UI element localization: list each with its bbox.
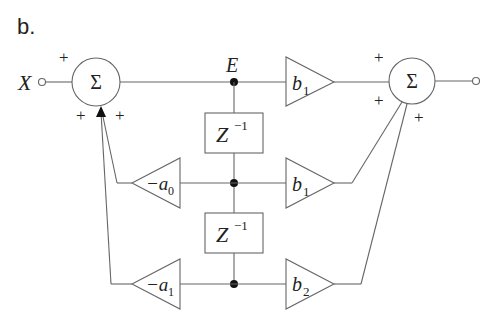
- delay-block: Z −1: [205, 213, 263, 253]
- input-terminal: [39, 79, 46, 86]
- sign-plus: +: [374, 91, 384, 110]
- svg-text:Z: Z: [216, 222, 229, 247]
- output-terminal: [473, 78, 480, 85]
- gain-b1-mid: b 1: [286, 158, 334, 208]
- svg-text:2: 2: [303, 284, 310, 299]
- svg-text:−a: −a: [146, 274, 168, 295]
- sign-plus: +: [59, 48, 69, 67]
- svg-text:b: b: [292, 273, 302, 295]
- svg-text:Σ: Σ: [406, 70, 418, 92]
- sign-plus: +: [115, 106, 125, 125]
- input-label: X: [17, 70, 33, 95]
- sign-plus: +: [76, 106, 86, 125]
- svg-text:−1: −1: [234, 218, 248, 233]
- svg-text:Σ: Σ: [90, 71, 102, 93]
- gain-b2: b 2: [286, 259, 334, 309]
- svg-text:−a: −a: [146, 173, 168, 194]
- arrowhead-icon: [96, 106, 106, 117]
- sign-plus: +: [374, 48, 384, 67]
- svg-text:−1: −1: [234, 118, 248, 133]
- block-diagram: X Σ + + + E Z −1 Z −1 b 1 Σ + + +: [0, 0, 496, 325]
- gain-b1-top: b 1: [286, 57, 334, 106]
- svg-text:0: 0: [168, 184, 174, 198]
- svg-text:b: b: [292, 72, 302, 94]
- svg-text:b: b: [292, 173, 302, 195]
- gain-a0: −a 0: [132, 158, 180, 208]
- svg-text:1: 1: [303, 83, 310, 98]
- sign-plus: +: [414, 108, 424, 127]
- input-summer: Σ: [72, 58, 120, 106]
- svg-text:1: 1: [303, 184, 310, 199]
- svg-text:1: 1: [168, 285, 174, 299]
- output-summer: Σ: [389, 58, 435, 104]
- svg-text:Z: Z: [216, 122, 229, 147]
- gain-a1: −a 1: [132, 259, 180, 309]
- node-label-e: E: [225, 54, 238, 76]
- delay-block: Z −1: [205, 113, 263, 153]
